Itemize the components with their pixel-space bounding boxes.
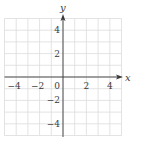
x-tick-labels: −4−2024 — [8, 81, 113, 91]
y-tick-label: −2 — [47, 95, 60, 105]
coordinate-plane: x y −4−2024 42−2−4 — [0, 0, 150, 144]
y-tick-label: 2 — [54, 49, 60, 59]
x-tick-label: −4 — [8, 81, 22, 91]
x-tick-label: 4 — [107, 81, 113, 91]
axes — [5, 14, 124, 137]
x-tick-label: 2 — [84, 81, 90, 91]
x-axis-label: x — [125, 72, 131, 83]
x-tick-label: 0 — [54, 81, 60, 91]
y-axis-label: y — [59, 2, 66, 13]
y-tick-label: −4 — [47, 119, 61, 129]
y-tick-label: 4 — [54, 25, 60, 35]
x-tick-label: −2 — [31, 81, 44, 91]
